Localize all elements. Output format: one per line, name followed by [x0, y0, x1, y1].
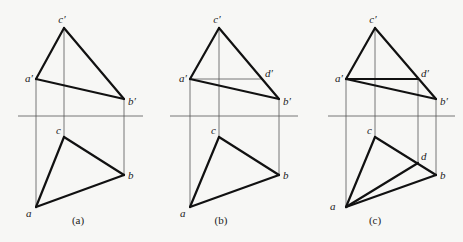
- projection-figure: c′a′b′cba(a)c′a′d′b′cba(b)c′a′d′b′cdba(c…: [0, 0, 463, 242]
- point-label-a: a: [26, 207, 32, 219]
- point-label-c: c: [211, 124, 216, 136]
- point-label-a: a: [180, 207, 186, 219]
- edge-a-prime-c-prime: [190, 28, 219, 79]
- point-label-b: b: [128, 169, 134, 181]
- edge-a-b: [190, 175, 279, 207]
- panel-caption: (a): [72, 214, 85, 227]
- edge-a-prime-c-prime: [36, 28, 64, 79]
- point-label-c-prime: c′: [213, 13, 221, 25]
- panel-caption: (b): [215, 214, 228, 227]
- point-label-d-prime: d′: [265, 67, 274, 79]
- point-label-b-prime: b′: [128, 95, 137, 107]
- panel-a: c′a′b′cba(a): [18, 13, 143, 227]
- point-label-a: a: [330, 200, 336, 212]
- point-label-c-prime: c′: [369, 13, 377, 25]
- edge-a-prime-c-prime: [346, 28, 375, 79]
- point-label-b-prime: b′: [283, 95, 292, 107]
- panel-c: c′a′d′b′cdba(c): [328, 13, 455, 227]
- point-label-c: c: [367, 124, 372, 136]
- point-label-a-prime: a′: [335, 72, 344, 84]
- edge-c-b: [64, 137, 124, 175]
- point-label-d: d: [421, 150, 427, 162]
- edge-a-c: [346, 137, 375, 207]
- point-label-b-prime: b′: [440, 95, 449, 107]
- edge-a-c: [190, 137, 219, 207]
- panel-caption: (c): [369, 214, 382, 227]
- point-label-c-prime: c′: [58, 13, 66, 25]
- point-label-a-prime: a′: [25, 72, 34, 84]
- point-label-b: b: [283, 169, 289, 181]
- panel-b: c′a′d′b′cba(b): [170, 13, 298, 227]
- point-label-b: b: [440, 169, 446, 181]
- point-label-a-prime: a′: [179, 72, 188, 84]
- edge-c-b: [219, 137, 279, 175]
- edge-a-b: [36, 175, 124, 207]
- point-label-d-prime: d′: [421, 67, 430, 79]
- edge-c-b: [375, 137, 436, 175]
- point-label-c: c: [56, 124, 61, 136]
- edge-a-c: [36, 137, 64, 207]
